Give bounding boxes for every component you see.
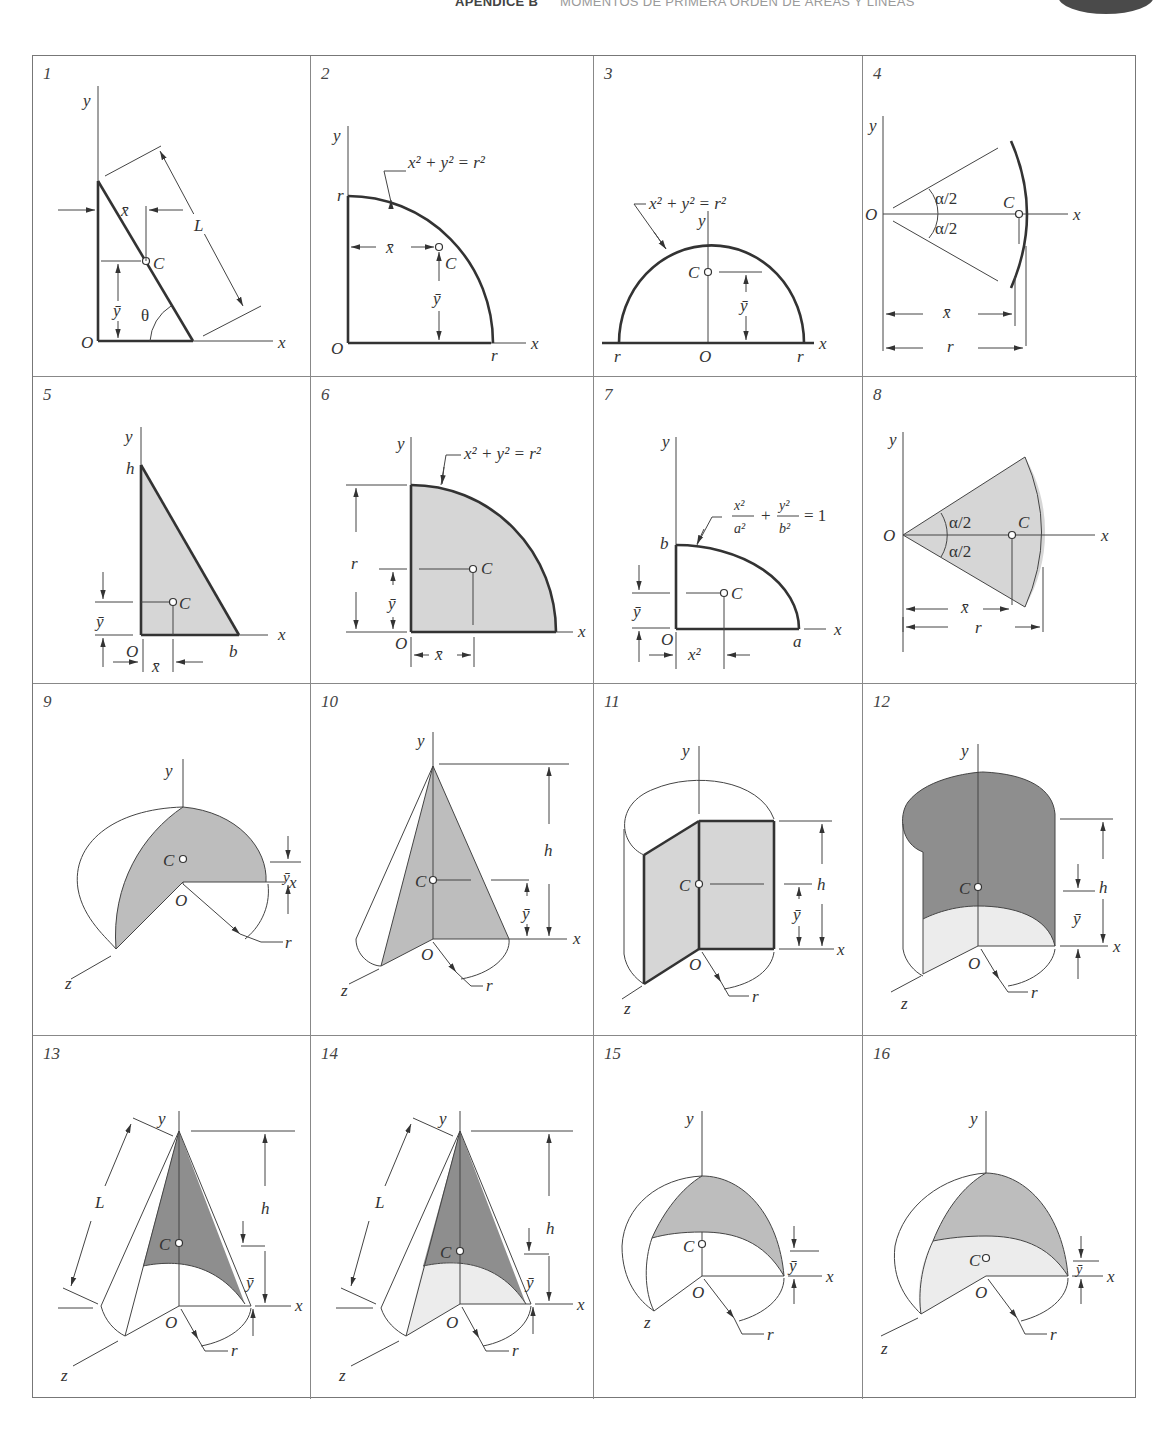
svg-text:r: r [512, 1341, 519, 1360]
svg-text:C: C [153, 254, 165, 273]
svg-text:x: x [1112, 937, 1121, 956]
circular-arc-figure: y x O α/2 α/2 C x̄ r [863, 56, 1137, 376]
svg-text:x: x [833, 620, 842, 639]
svg-text:r: r [767, 1325, 774, 1344]
svg-text:O: O [699, 347, 711, 366]
cone-with-base-figure: y z O x C L h [311, 1036, 593, 1399]
svg-text:C: C [159, 1235, 171, 1254]
svg-text:z: z [623, 999, 631, 1018]
svg-text:h: h [1099, 878, 1108, 897]
panel-2: 2 y x O r r C x̄ ȳ x² + y² = r² [311, 56, 594, 377]
svg-text:x: x [1100, 526, 1109, 545]
svg-text:L: L [94, 1193, 104, 1212]
svg-text:x²: x² [687, 645, 702, 664]
svg-text:x² + y² = r²: x² + y² = r² [407, 153, 486, 172]
svg-text:+: + [761, 506, 771, 525]
svg-text:O: O [692, 1283, 704, 1302]
svg-text:y: y [887, 430, 897, 449]
svg-text:y: y [156, 1109, 166, 1128]
svg-text:y: y [684, 1109, 694, 1128]
quarter-circle-area-figure: y x O C r ȳ x̄ [311, 377, 593, 683]
svg-text:y: y [81, 91, 91, 110]
svg-text:O: O [968, 954, 980, 973]
panel-13: 13 y z O x C L [33, 1036, 311, 1399]
svg-text:h: h [126, 459, 135, 478]
svg-text:x̄: x̄ [434, 645, 443, 664]
svg-text:O: O [865, 205, 877, 224]
svg-text:x: x [1072, 205, 1081, 224]
svg-text:z: z [340, 981, 348, 1000]
triangle-area-figure: y x h b O C ȳ x̄ [33, 377, 310, 683]
cylinder-section-figure: y z O x C h [594, 684, 862, 1035]
svg-text:r: r [1050, 1325, 1057, 1344]
quarter-ellipse-area-figure: y x b a O C ȳ x² x² a² [594, 377, 862, 683]
hemispherical-shell-figure: y x z O C r ȳ [594, 1036, 862, 1399]
svg-text:r: r [491, 346, 498, 365]
svg-text:y: y [680, 741, 690, 760]
svg-text:y: y [331, 126, 341, 145]
svg-text:O: O [126, 642, 138, 661]
svg-text:C: C [688, 263, 700, 282]
svg-text:ȳ: ȳ [111, 301, 121, 320]
svg-text:O: O [421, 945, 433, 964]
svg-text:O: O [975, 1283, 987, 1302]
svg-text:y: y [696, 211, 706, 230]
page-header: APÉNDICE B MOMENTOS DE PRIMERA ORDEN DE … [455, 0, 915, 9]
centroid-table: 1 y x O C x̄ ȳ θ L [32, 55, 1136, 1398]
svg-text:r: r [231, 1341, 238, 1360]
quarter-arc-figure: y x O r r C x̄ ȳ x² + y² = r² [311, 56, 593, 376]
svg-text:x̄: x̄ [120, 201, 129, 220]
svg-text:O: O [446, 1313, 458, 1332]
svg-text:x: x [572, 929, 581, 948]
svg-text:y: y [959, 741, 969, 760]
svg-text:O: O [175, 891, 187, 910]
svg-text:C: C [1018, 513, 1030, 532]
svg-text:L: L [374, 1193, 384, 1212]
svg-text:x²: x² [733, 498, 745, 513]
svg-text:r: r [1031, 983, 1038, 1002]
svg-text:h: h [817, 875, 826, 894]
panel-7: 7 y x b a O C ȳ x² x² [594, 377, 863, 684]
svg-text:y: y [660, 432, 670, 451]
panel-14: 14 y z O x C L [311, 1036, 594, 1399]
panel-11: 11 y z O x C [594, 684, 863, 1036]
panel-1: 1 y x O C x̄ ȳ θ L [33, 56, 311, 377]
svg-text:x: x [294, 1296, 303, 1315]
svg-text:r: r [752, 987, 759, 1006]
svg-text:z: z [880, 1339, 888, 1358]
svg-text:ȳ: ȳ [787, 1256, 797, 1275]
circular-sector-area-figure: y x O α/2 α/2 C x̄ r [863, 377, 1137, 683]
svg-text:z: z [643, 1313, 651, 1332]
svg-text:z: z [338, 1366, 346, 1385]
svg-text:y: y [123, 427, 133, 446]
svg-text:O: O [331, 339, 343, 358]
svg-text:z: z [900, 994, 908, 1013]
svg-text:x̄: x̄ [385, 238, 394, 257]
svg-text:b²: b² [779, 521, 791, 536]
panel-4: 4 y x O α/2 α/2 C x̄ r [863, 56, 1137, 377]
svg-text:L: L [193, 216, 203, 235]
panel-9: 9 y x z O C r ȳ [33, 684, 311, 1036]
svg-text:C: C [969, 1251, 981, 1270]
svg-text:b: b [660, 534, 669, 553]
svg-text:ȳ: ȳ [94, 612, 104, 631]
svg-text:r: r [337, 186, 344, 205]
svg-text:y²: y² [777, 498, 790, 513]
svg-text:h: h [546, 1219, 555, 1238]
svg-text:r: r [351, 554, 358, 573]
svg-text:x: x [818, 334, 827, 353]
svg-text:x: x [277, 333, 286, 352]
conical-shell-figure: y z O x C L h [33, 1036, 310, 1399]
svg-text:x̄: x̄ [960, 598, 969, 617]
svg-text:r: r [285, 933, 292, 952]
svg-text:C: C [679, 876, 691, 895]
publisher-logo [1058, 0, 1154, 14]
svg-text:ȳ: ȳ [281, 869, 290, 885]
svg-text:r: r [947, 337, 954, 356]
panel-8: 8 y x O α/2 α/2 C x̄ r [863, 377, 1137, 684]
panel-16: 16 y z x O C r ȳ [863, 1036, 1137, 1399]
svg-text:y: y [395, 434, 405, 453]
appendix-title: MOMENTOS DE PRIMERA ORDEN DE ÁREAS Y LÍN… [560, 0, 915, 9]
hemisphere-with-base-figure: y z x O C r ȳ [863, 1036, 1137, 1399]
svg-text:x: x [825, 1267, 834, 1286]
